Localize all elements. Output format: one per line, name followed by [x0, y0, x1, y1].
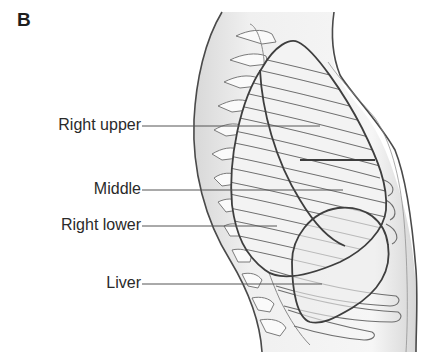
anatomy-illustration [0, 0, 439, 360]
label-middle: Middle [94, 180, 141, 198]
label-right-lower: Right lower [61, 216, 141, 234]
label-right-upper: Right upper [58, 116, 141, 134]
lung-diagram: B [0, 0, 439, 360]
label-liver: Liver [106, 274, 141, 292]
